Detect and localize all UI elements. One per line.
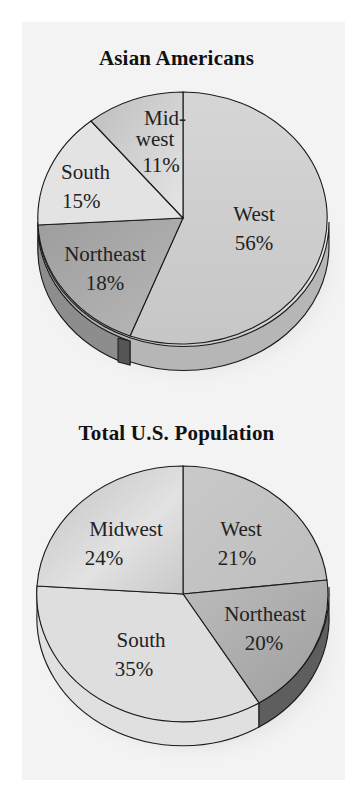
pie-chart-asian-americans: West 56% Northeast 18% South 15% Mid- we… — [0, 0, 353, 400]
label-midwest-pct: 24% — [85, 546, 124, 570]
label-west-name: West — [220, 517, 262, 541]
pie-chart-total-us-population: West 21% Midwest 24% Northeast 20% South… — [0, 400, 353, 798]
label-west-name: West — [233, 202, 275, 226]
label-midwest-name-2: west — [136, 127, 175, 151]
label-south-name: South — [61, 160, 111, 184]
label-west-pct: 21% — [218, 546, 257, 570]
label-south-pct: 35% — [115, 657, 154, 681]
label-northeast-name: Northeast — [224, 602, 306, 626]
label-midwest-pct: 11% — [142, 153, 180, 177]
label-west-pct: 56% — [235, 231, 274, 255]
label-northeast-pct: 20% — [245, 631, 284, 655]
label-northeast-pct: 18% — [86, 271, 125, 295]
label-midwest-name: Midwest — [89, 517, 163, 541]
label-south-name: South — [116, 628, 166, 652]
label-south-pct: 15% — [62, 189, 101, 213]
label-northeast-name: Northeast — [64, 242, 146, 266]
